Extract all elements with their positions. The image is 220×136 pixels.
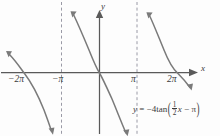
- tangent-function-graph-figure: −2π −π π 2π y x y = −4tan(12x − π): [0, 0, 220, 136]
- equation-fraction-denominator: 2: [172, 109, 178, 116]
- equation-annotation: y = −4tan(12x − π): [133, 101, 200, 117]
- equation-close-paren: ): [196, 102, 199, 118]
- x-axis-label: x: [201, 64, 205, 73]
- equation-minus: −: [184, 104, 189, 114]
- curve-left-branch-arrow-bottom: [49, 127, 55, 134]
- x-tick-label-neg-two-pi: −2π: [8, 75, 24, 85]
- x-axis-arrowhead: [189, 69, 198, 76]
- curve-center-branch-arrow-bottom: [123, 129, 129, 136]
- equation-lhs: y: [133, 104, 137, 114]
- equation-fraction: 12: [172, 101, 178, 117]
- equation-open-paren: (: [168, 102, 171, 118]
- x-tick-label-neg-pi: −π: [52, 75, 63, 85]
- y-axis-arrowhead: [96, 10, 103, 18]
- equation-equals: =: [139, 104, 144, 114]
- equation-variable: x: [178, 104, 182, 114]
- equation-phase: π: [191, 104, 196, 114]
- curve-right-branch-arrow-top: [146, 12, 152, 18]
- equation-function-name: tan: [156, 104, 167, 114]
- y-axis-label: y: [101, 2, 105, 11]
- x-tick-label-pi: π: [131, 75, 136, 85]
- x-tick-label-two-pi: 2π: [167, 75, 177, 85]
- curve-center-branch-arrow-top: [71, 11, 77, 17]
- equation-coefficient: −4: [147, 104, 157, 114]
- curve-left-branch: [10, 55, 52, 132]
